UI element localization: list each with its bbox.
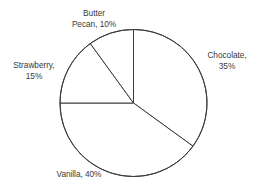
- slice-label-vanilla: Vanilla, 40%: [44, 169, 114, 180]
- pie-chart-figure: Butter Pecan, 10% Chocolate, 35% Strawbe…: [0, 0, 256, 192]
- slice-label-butter-pecan: Butter Pecan, 10%: [52, 8, 136, 29]
- slice-label-chocolate: Chocolate, 35%: [196, 50, 256, 71]
- slice-label-strawberry: Strawberry, 15%: [2, 60, 66, 81]
- pie-slice-group: [60, 30, 207, 177]
